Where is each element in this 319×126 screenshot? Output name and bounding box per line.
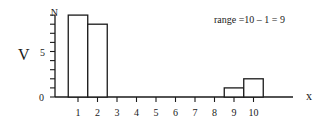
histogram-bar — [224, 88, 244, 97]
y-tick-label-5: 5 — [40, 47, 45, 58]
histogram-bar — [244, 79, 264, 97]
x-tick-label: 7 — [193, 107, 198, 118]
bars — [68, 15, 263, 97]
histogram-bar — [88, 24, 108, 97]
x-axis-label: x — [306, 89, 312, 103]
x-tick-label: 4 — [134, 107, 139, 118]
y-axis-label: V — [18, 46, 30, 63]
x-tick-label: 3 — [115, 107, 120, 118]
y-tick-label-0: 0 — [39, 92, 44, 103]
x-tick-label: 9 — [232, 107, 237, 118]
range-annotation: range =10 – 1 = 9 — [214, 14, 285, 25]
x-tick-label: 2 — [95, 107, 100, 118]
y-tick-label-top: N — [51, 7, 58, 18]
histogram-chart: 12345678910 V x range =10 – 1 = 9 0 5 N — [0, 0, 319, 126]
y-axis-ticks — [50, 15, 55, 97]
x-tick-label: 6 — [173, 107, 178, 118]
x-tick-label: 5 — [154, 107, 159, 118]
x-tick-label: 1 — [76, 107, 81, 118]
x-tick-label: 8 — [212, 107, 217, 118]
x-tick-label: 10 — [249, 107, 259, 118]
x-axis-ticks: 12345678910 — [76, 97, 259, 118]
histogram-bar — [68, 15, 88, 97]
